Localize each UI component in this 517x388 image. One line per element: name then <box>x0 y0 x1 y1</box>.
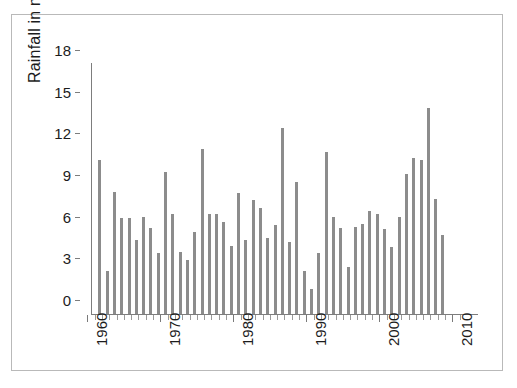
bar <box>157 253 160 314</box>
bar <box>398 217 401 314</box>
x-axis-tick-mark <box>138 315 139 320</box>
x-axis-tick-label: 1960 <box>93 313 110 346</box>
y-axis-tick-label: 3 <box>47 250 71 267</box>
y-axis-tick-mark <box>75 92 80 93</box>
x-axis-tick-mark <box>438 315 439 320</box>
y-axis-tick-mark <box>75 258 80 259</box>
bar <box>179 252 182 315</box>
bar <box>252 200 255 314</box>
bar <box>244 240 247 314</box>
x-axis-major-tick-mark <box>306 315 307 322</box>
bar <box>310 289 313 314</box>
y-axis-tick-mark <box>75 217 80 218</box>
bar <box>405 174 408 314</box>
chart-frame: Rainfall in mm 0369121518 19601970198019… <box>11 14 503 371</box>
bar <box>259 208 262 314</box>
y-axis-tick-label: 18 <box>47 42 71 59</box>
x-axis-tick-mark <box>124 315 125 320</box>
x-axis-tick-mark <box>336 315 337 320</box>
x-axis-tick-label: 2000 <box>385 313 402 346</box>
y-axis-tick-label: 9 <box>47 167 71 184</box>
bar <box>390 247 393 314</box>
x-axis-tick-mark <box>263 315 264 320</box>
bar <box>427 108 430 314</box>
y-axis-tick-label: 12 <box>47 125 71 142</box>
bar <box>113 192 116 314</box>
x-axis-tick-mark <box>226 315 227 320</box>
x-axis-major-tick-mark <box>233 315 234 322</box>
bar <box>193 232 196 314</box>
x-axis-tick-mark <box>365 315 366 320</box>
bar <box>303 271 306 314</box>
x-axis-tick-mark <box>219 315 220 320</box>
bar <box>354 227 357 315</box>
x-axis-tick-mark <box>350 315 351 320</box>
y-axis-tick-label: 0 <box>47 292 71 309</box>
x-axis-tick-mark <box>277 315 278 320</box>
bar <box>295 182 298 314</box>
bar <box>142 217 145 314</box>
x-axis-tick-mark <box>409 315 410 320</box>
bar <box>186 260 189 314</box>
x-axis-tick-mark <box>284 315 285 320</box>
bar <box>376 214 379 314</box>
bar <box>215 214 218 314</box>
bar <box>274 225 277 314</box>
x-axis-tick-mark <box>190 315 191 320</box>
x-axis-tick-mark <box>117 315 118 320</box>
y-axis-tick-label: 15 <box>47 83 71 100</box>
x-axis-major-tick-mark <box>379 315 380 322</box>
bar <box>106 271 109 314</box>
bar <box>128 218 131 314</box>
x-axis-tick-mark <box>423 315 424 320</box>
bar <box>339 228 342 314</box>
x-axis-major-tick-mark <box>87 315 88 322</box>
plot-area <box>91 64 477 314</box>
x-axis-major-tick-mark <box>160 315 161 322</box>
bar <box>164 172 167 314</box>
x-axis-tick-mark <box>430 315 431 320</box>
bar <box>171 214 174 314</box>
x-axis-tick-mark <box>270 315 271 320</box>
x-axis-tick-label: 1970 <box>166 313 183 346</box>
bar <box>201 149 204 314</box>
bar <box>441 235 444 314</box>
bar <box>383 229 386 314</box>
bar <box>368 211 371 314</box>
x-axis-tick-mark <box>343 315 344 320</box>
y-axis-tick-mark <box>75 133 80 134</box>
bar <box>325 152 328 315</box>
bar <box>317 253 320 314</box>
y-axis-tick-mark <box>75 300 80 301</box>
x-axis-tick-mark <box>292 315 293 320</box>
bar <box>347 267 350 314</box>
y-axis-tick-mark <box>75 50 80 51</box>
x-axis-tick-mark <box>299 315 300 320</box>
x-axis-tick-mark <box>211 315 212 320</box>
bar <box>149 228 152 314</box>
x-axis-tick-label: 1990 <box>312 313 329 346</box>
bar <box>222 222 225 314</box>
bar <box>230 246 233 314</box>
x-axis-tick-mark <box>372 315 373 320</box>
bar <box>208 214 211 314</box>
x-axis-major-tick-mark <box>452 315 453 322</box>
bar <box>135 240 138 314</box>
x-axis-tick-label: 1980 <box>239 313 256 346</box>
y-axis-tick-label: 6 <box>47 208 71 225</box>
x-axis-tick-mark <box>445 315 446 320</box>
x-axis-tick-mark <box>131 315 132 320</box>
x-axis-tick-mark <box>153 315 154 320</box>
x-axis-tick-label: 2010 <box>458 313 475 346</box>
x-axis-tick-mark <box>416 315 417 320</box>
x-axis-tick-mark <box>197 315 198 320</box>
bar <box>420 160 423 314</box>
bar <box>120 218 123 314</box>
bar <box>332 217 335 314</box>
x-axis-tick-mark <box>146 315 147 320</box>
bar <box>237 193 240 314</box>
x-axis-tick-mark <box>357 315 358 320</box>
bar <box>434 199 437 314</box>
bar <box>98 160 101 314</box>
bar <box>361 224 364 314</box>
